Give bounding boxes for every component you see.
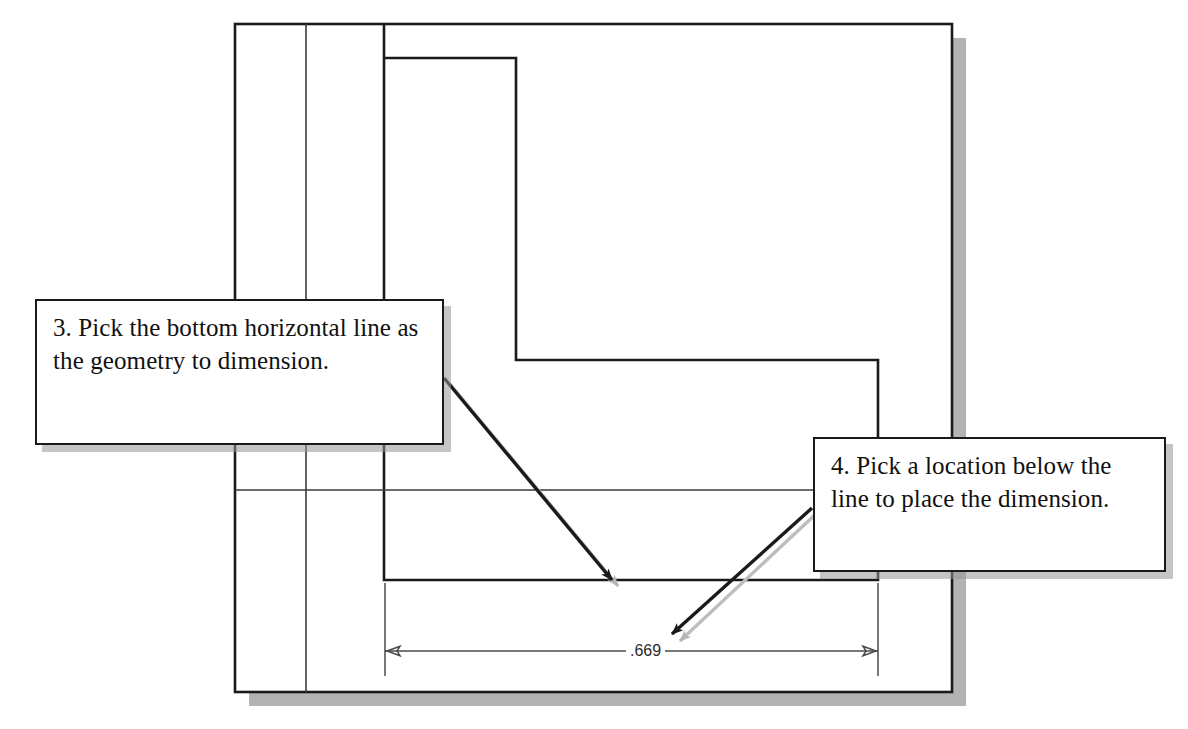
callout-step-4-text: 4. Pick a location below the line to pla… <box>831 449 1150 515</box>
figure-canvas: .669 3. Pick the bottom horizontal line … <box>0 0 1188 729</box>
callout-step-4[interactable]: 4. Pick a location below the line to pla… <box>813 437 1166 572</box>
callout-step-3-text: 3. Pick the bottom horizontal line as th… <box>53 311 428 377</box>
callout-step-3[interactable]: 3. Pick the bottom horizontal line as th… <box>35 299 444 445</box>
dimension-value-label: .669 <box>626 643 665 659</box>
